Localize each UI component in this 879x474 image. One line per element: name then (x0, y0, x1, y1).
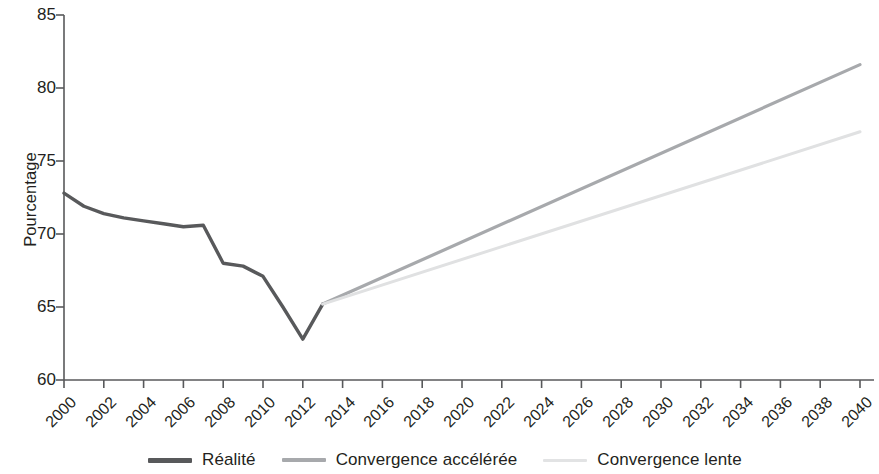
plot-area (0, 0, 879, 474)
legend-item[interactable]: Convergence lente (543, 450, 741, 470)
series-line (323, 132, 860, 304)
legend-item-label: Réalité (202, 450, 256, 470)
series-lines (64, 65, 860, 339)
legend-line-swatch-icon (282, 458, 326, 462)
legend-item-label: Convergence accélérée (336, 450, 518, 470)
axis-lines (56, 15, 874, 388)
legend-item[interactable]: Convergence accélérée (282, 450, 518, 470)
legend-line-swatch-icon (148, 458, 192, 463)
chart-container: Pourcentage 606570758085 200020022004200… (0, 0, 879, 474)
series-line (323, 65, 860, 304)
chart-legend: RéalitéConvergence accéléréeConvergence … (0, 446, 879, 474)
legend-item-label: Convergence lente (597, 450, 741, 470)
legend-line-swatch-icon (543, 459, 587, 462)
legend-item[interactable]: Réalité (148, 450, 256, 470)
series-line (64, 193, 323, 339)
